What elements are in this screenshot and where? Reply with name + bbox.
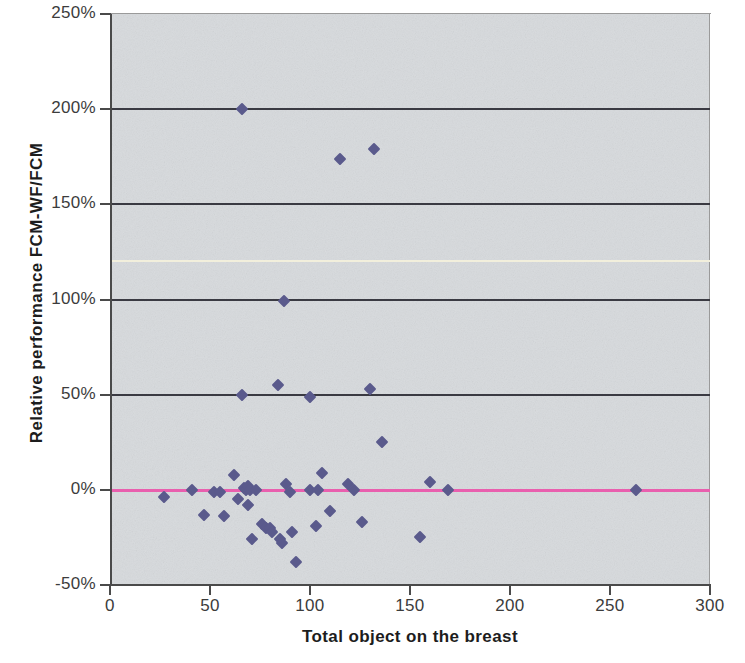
gridline-200 (110, 108, 710, 110)
x-tick-150 (409, 585, 411, 595)
gridline-120 (110, 260, 710, 262)
y-tick-label-50: 50% (0, 384, 96, 404)
x-tick-label-200: 200 (480, 596, 540, 616)
x-tick-250 (609, 585, 611, 595)
scatter-chart-figure: -50%0%50%100%150%200%250% 05010015020025… (0, 0, 745, 663)
y-axis-title: Relative performance FCM-WF/FCM (27, 3, 47, 583)
x-axis-title: Total object on the breast (110, 627, 710, 647)
y-tick-200 (100, 108, 111, 110)
y-tick-100 (100, 299, 111, 301)
y-tick-0 (100, 489, 111, 491)
x-tick-100 (309, 585, 311, 595)
x-tick-label-50: 50 (180, 596, 240, 616)
gridline-150 (110, 203, 710, 205)
y-tick-50 (100, 394, 111, 396)
x-tick-label-0: 0 (80, 596, 140, 616)
y-tick-label-200: 200% (0, 98, 96, 118)
plot-frame-top (110, 13, 711, 14)
y-tick-150 (100, 203, 111, 205)
gridline-100 (110, 299, 710, 301)
gridline-0 (110, 489, 710, 492)
x-tick-200 (509, 585, 511, 595)
x-tick-label-300: 300 (680, 596, 740, 616)
x-tick-label-250: 250 (580, 596, 640, 616)
x-tick-300 (709, 585, 711, 595)
x-tick-0 (109, 585, 111, 595)
y-tick-250 (100, 13, 111, 15)
x-tick-50 (209, 585, 211, 595)
y-tick-label-0: 0% (0, 479, 96, 499)
x-tick-label-100: 100 (280, 596, 340, 616)
y-tick-label-150: 150% (0, 193, 96, 213)
gridline-50 (110, 394, 710, 396)
y-tick-label-250: 250% (0, 3, 96, 23)
x-tick-label-150: 150 (380, 596, 440, 616)
y-tick-label--50: -50% (0, 574, 96, 594)
y-tick-label-100: 100% (0, 289, 96, 309)
